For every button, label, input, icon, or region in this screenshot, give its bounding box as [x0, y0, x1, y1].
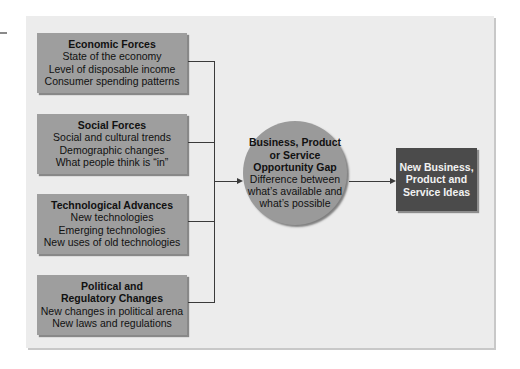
new-ideas-box: New Business, Product and Service Ideas [396, 148, 477, 211]
box-item: New laws and regulations [37, 317, 187, 329]
gap-desc: what’s possible [259, 197, 330, 209]
box-item: New technologies [37, 211, 187, 223]
connector-vertical-bus [214, 61, 215, 303]
box-item: Social and cultural trends [37, 131, 187, 143]
result-line: New Business, [396, 161, 477, 173]
box-title: Technological Advances [37, 199, 187, 211]
result-line: Service Ideas [396, 186, 477, 198]
opportunity-gap-circle: Business, Product or Service Opportunity… [243, 121, 347, 225]
technological-advances-box: Technological Advances New technologies … [37, 194, 187, 254]
box-item: What people think is “in” [37, 156, 187, 168]
box-item: State of the economy [37, 50, 187, 62]
connector-social [188, 142, 215, 143]
connector-political [188, 302, 215, 303]
gap-desc: Difference between [250, 173, 340, 185]
arrow-to-gap [214, 181, 238, 182]
connector-economic [188, 61, 215, 62]
box-item: Emerging technologies [37, 224, 187, 236]
box-item: New uses of old technologies [37, 236, 187, 248]
box-item: Level of disposable income [37, 63, 187, 75]
social-forces-box: Social Forces Social and cultural trends… [37, 114, 187, 174]
gap-title: or Service [270, 149, 321, 161]
box-title: Regulatory Changes [37, 292, 187, 304]
arrowhead-icon [237, 178, 243, 184]
political-regulatory-box: Political and Regulatory Changes New cha… [37, 275, 187, 335]
gap-title: Opportunity Gap [253, 161, 336, 173]
gap-desc: what’s available and [248, 185, 342, 197]
economic-forces-box: Economic Forces State of the economy Lev… [37, 33, 187, 93]
arrow-to-result [349, 181, 391, 182]
box-item: New changes in political arena [37, 305, 187, 317]
box-item: Consumer spending patterns [37, 75, 187, 87]
gap-title: Business, Product [249, 136, 341, 148]
margin-dash [0, 32, 7, 34]
result-line: Product and [396, 173, 477, 185]
box-title: Political and [37, 280, 187, 292]
connector-technological [188, 221, 215, 222]
box-item: Demographic changes [37, 144, 187, 156]
box-title: Social Forces [37, 119, 187, 131]
box-title: Economic Forces [37, 38, 187, 50]
